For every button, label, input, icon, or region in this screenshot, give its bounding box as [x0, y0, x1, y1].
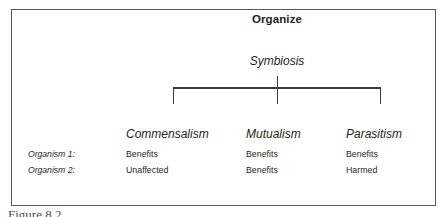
row-label-group: Organism 1: Organism 2:: [28, 146, 120, 178]
column-parasitism: Parasitism Benefits Harmed: [346, 124, 448, 178]
column-commensalism: Commensalism Benefits Unaffected: [126, 124, 246, 178]
row-label-organism-2: Organism 2:: [28, 162, 120, 178]
root-node-label: Symbiosis: [170, 54, 384, 68]
figure-title: Organize: [170, 13, 384, 25]
column-heading-commensalism: Commensalism: [126, 124, 246, 146]
figure-caption: Figure 8.2: [8, 207, 61, 217]
row-label-organism-1: Organism 1:: [28, 146, 120, 162]
cell-parasitism-organism-1: Benefits: [346, 146, 448, 162]
cell-commensalism-organism-1: Benefits: [126, 146, 246, 162]
figure-container: Organize Symbiosis Organism 1: Organism …: [0, 0, 448, 217]
column-heading-parasitism: Parasitism: [346, 124, 448, 146]
cell-commensalism-organism-2: Unaffected: [126, 162, 246, 178]
cell-parasitism-organism-2: Harmed: [346, 162, 448, 178]
